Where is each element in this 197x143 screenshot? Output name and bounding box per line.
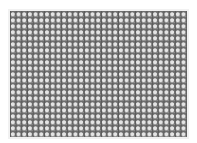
mesh-texture	[10, 11, 187, 137]
